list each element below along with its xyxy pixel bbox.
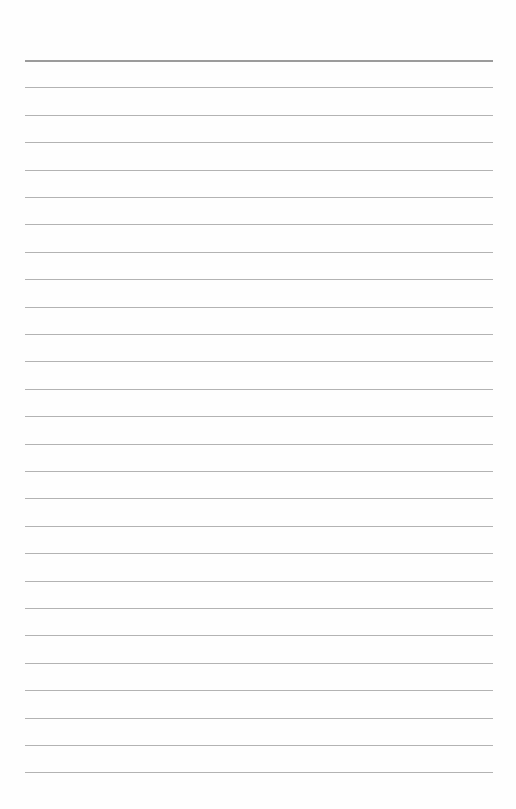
rule-line (25, 718, 493, 719)
rule-line (25, 553, 493, 554)
rule-line (25, 224, 493, 225)
rule-line (25, 279, 493, 280)
top-rule-line (25, 60, 493, 62)
rule-line (25, 197, 493, 198)
rule-line (25, 745, 493, 746)
rule-line (25, 526, 493, 527)
rule-line (25, 498, 493, 499)
rule-line (25, 87, 493, 88)
rule-line (25, 690, 493, 691)
rule-line (25, 389, 493, 390)
rule-line (25, 581, 493, 582)
rule-line (25, 416, 493, 417)
rule-line (25, 635, 493, 636)
rule-line (25, 142, 493, 143)
rule-line (25, 307, 493, 308)
rule-line (25, 334, 493, 335)
rule-line (25, 115, 493, 116)
lined-paper-page (0, 0, 516, 809)
rule-line (25, 471, 493, 472)
rule-line (25, 252, 493, 253)
rule-line (25, 361, 493, 362)
rule-line (25, 772, 493, 773)
rule-line (25, 170, 493, 171)
rule-line (25, 608, 493, 609)
rule-line (25, 663, 493, 664)
rule-line (25, 444, 493, 445)
